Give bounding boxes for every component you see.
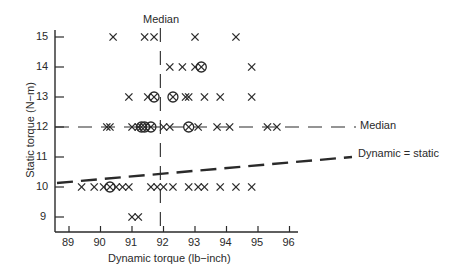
x-marker [141,33,148,40]
x-marker [110,33,117,40]
scatter-chart: Median Median Dynamic = static Dynamic t… [0,0,456,274]
circled-x-marker [196,62,206,72]
x-marker [191,33,198,40]
y-tick-label: 15 [36,31,48,42]
circled-x-marker [149,92,159,102]
y-tick-label: 10 [36,181,48,192]
x-marker [248,93,255,100]
x-marker [125,183,132,190]
x-marker [91,183,98,190]
x-tick-label: 93 [188,237,200,248]
x-marker [248,183,255,190]
x-marker [119,183,126,190]
x-tick-label: 90 [94,237,106,248]
y-tick-label: 14 [36,61,48,72]
x-tick-label: 92 [157,237,169,248]
x-tick-label: 89 [62,237,74,248]
x-marker [128,213,135,220]
x-marker [201,183,208,190]
x-marker [185,183,192,190]
x-tick-label: 95 [251,237,263,248]
x-marker [217,183,224,190]
circled-x-marker [105,182,115,192]
x-axis-title: Dynamic torque (lb−inch) [108,253,231,264]
x-tick-label: 94 [220,237,232,248]
x-marker [232,183,239,190]
x-marker [217,93,224,100]
x-marker [201,93,208,100]
circled-x-marker [168,92,178,102]
x-marker [125,93,132,100]
y-axis-title: Static torque (N−m) [24,74,36,186]
x-marker [232,33,239,40]
x-marker [150,33,157,40]
y-tick-label: 11 [36,151,47,162]
y-tick-label: 12 [36,121,48,132]
dynamic-equals-static-line [57,157,352,183]
plot-area [0,0,456,274]
dynamic-equals-static-label: Dynamic = static [358,148,439,159]
x-marker [195,183,202,190]
x-marker [154,183,161,190]
x-marker [179,63,186,70]
median-horizontal-label: Median [360,120,396,131]
x-tick-label: 91 [125,237,137,248]
x-marker [166,63,173,70]
circled-x-marker [184,122,194,132]
x-marker [160,183,167,190]
y-tick-label: 9 [40,211,46,222]
x-marker [135,213,142,220]
x-tick-label: 96 [283,237,295,248]
y-tick-label: 13 [36,91,48,102]
median-vertical-label: Median [143,14,179,25]
x-marker [248,63,255,70]
x-marker [78,183,85,190]
x-marker [147,183,154,190]
x-marker [169,183,176,190]
